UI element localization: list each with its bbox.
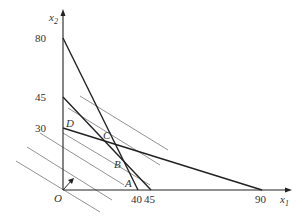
y-axis-label: x2 [48, 11, 58, 26]
point-c-label: C [103, 129, 111, 141]
y-axis-arrow-icon [61, 9, 66, 16]
point-a-label: A [124, 177, 132, 189]
constraint-80-40 [63, 38, 138, 190]
x-tick-40: 40 [131, 193, 143, 205]
x-tick-90: 90 [255, 193, 267, 205]
origin-label: O [54, 192, 62, 204]
x-axis-label: x1 [279, 193, 289, 208]
y-tick-80: 80 [35, 32, 47, 44]
constraint-45-45 [63, 97, 151, 190]
y-tick-45: 45 [35, 91, 47, 103]
constraint-30-90 [63, 128, 262, 190]
x-axis-arrow-icon [285, 188, 292, 193]
lp-diagram: 80 45 30 40 45 90 x2 x1 O A B C D [0, 0, 302, 223]
x-tick-45: 45 [144, 193, 156, 205]
constraint-lines [63, 38, 262, 190]
point-b-label: B [114, 158, 121, 170]
point-d-label: D [65, 117, 74, 129]
axes [63, 14, 285, 190]
y-tick-30: 30 [35, 122, 47, 134]
